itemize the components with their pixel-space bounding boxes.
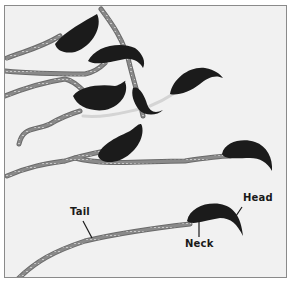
sperm-illustration <box>5 6 287 278</box>
sperm-head <box>55 14 99 53</box>
head-label: Head <box>243 192 273 203</box>
tail-leader-line <box>83 221 92 238</box>
head-leader-line <box>236 207 242 216</box>
figure-frame: Tail Neck Head <box>4 5 287 278</box>
neck-label: Neck <box>185 238 214 249</box>
tail-label: Tail <box>70 206 90 217</box>
